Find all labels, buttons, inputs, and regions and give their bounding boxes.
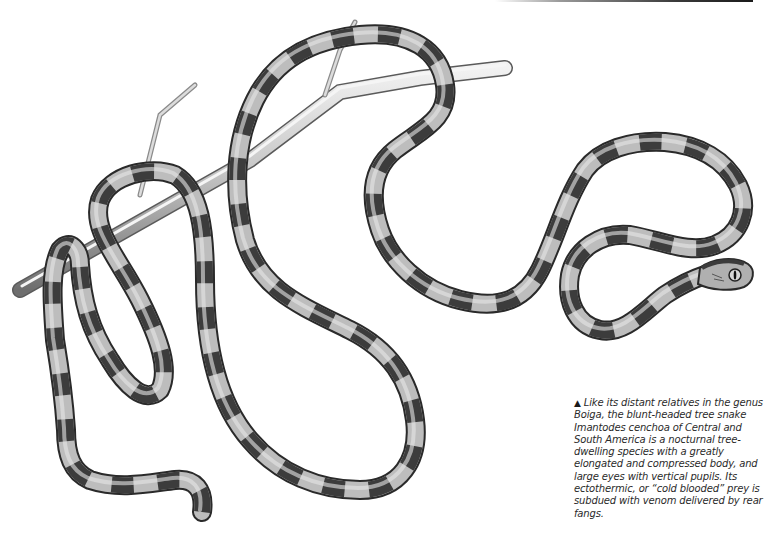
triangle-marker-icon: ▲	[574, 398, 581, 408]
caption-text: Like its distant relatives in the genus …	[574, 397, 763, 519]
snake-head	[698, 259, 753, 290]
figure-caption: ▲Like its distant relatives in the genus…	[574, 397, 764, 520]
